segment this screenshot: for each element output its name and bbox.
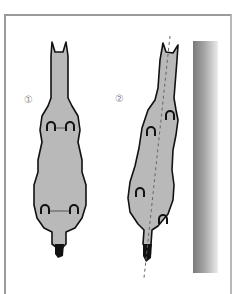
horse-figure-1 (34, 42, 86, 258)
horse-figure-2 (128, 36, 178, 278)
